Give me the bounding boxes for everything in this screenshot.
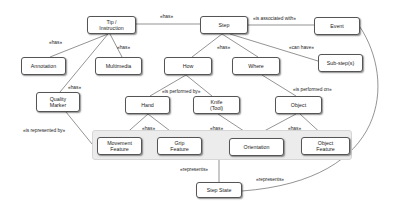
node-knife-tool[interactable]: Knife (Tool)	[193, 96, 240, 114]
edge-label-how-hand-knife: «is performed by»	[162, 89, 200, 94]
edge-label-quality-features: «is represented by»	[23, 128, 65, 133]
node-multimedia[interactable]: Multimedia	[95, 57, 142, 75]
node-event[interactable]: Event	[314, 17, 360, 35]
node-quality-marker[interactable]: Quality Marker	[36, 92, 80, 112]
node-step[interactable]: Step	[200, 16, 248, 34]
node-annotation[interactable]: Annotation	[21, 57, 66, 75]
edge-label-object-features: «has»	[288, 126, 301, 131]
edge-label-step-substeps: «can have»	[289, 45, 314, 50]
node-tip-instruction[interactable]: Tip / Instruction	[87, 16, 136, 34]
edge-label-where-object: «is performed on»	[293, 87, 332, 92]
edge-label-step-event: «is associated with»	[253, 16, 296, 21]
edge-label-tip-step: «has»	[160, 14, 173, 19]
edge-label-event-stepstate: «represents»	[256, 177, 284, 182]
edge-label-step-howwhere: «has»	[217, 45, 230, 50]
node-object-feature[interactable]: Object Feature	[301, 137, 350, 155]
edge-label-tip-annotation: «has»	[49, 40, 62, 45]
node-object[interactable]: Object	[275, 96, 322, 114]
node-step-state[interactable]: Step State	[196, 182, 242, 198]
node-where[interactable]: Where	[232, 57, 280, 75]
node-hand[interactable]: Hand	[125, 96, 170, 114]
edge-label-tip-multimedia: «has»	[117, 45, 130, 50]
ontology-diagram: Tip / Instruction Step Event Annotation …	[0, 0, 395, 211]
node-grip-feature[interactable]: Grip Feature	[157, 137, 202, 155]
node-how[interactable]: How	[164, 57, 212, 75]
node-movement-feature[interactable]: Movement Feature	[97, 137, 142, 155]
edge-label-knife-orientation: «has»	[210, 126, 223, 131]
edge-label-tip-quality: «has»	[68, 85, 81, 90]
node-substeps[interactable]: Sub-step(s)	[318, 54, 363, 72]
edge-label-features-stepstate: «represents»	[180, 167, 208, 172]
node-orientation[interactable]: Orientation	[229, 138, 284, 156]
edge-label-hand-features: «has»	[142, 126, 155, 131]
